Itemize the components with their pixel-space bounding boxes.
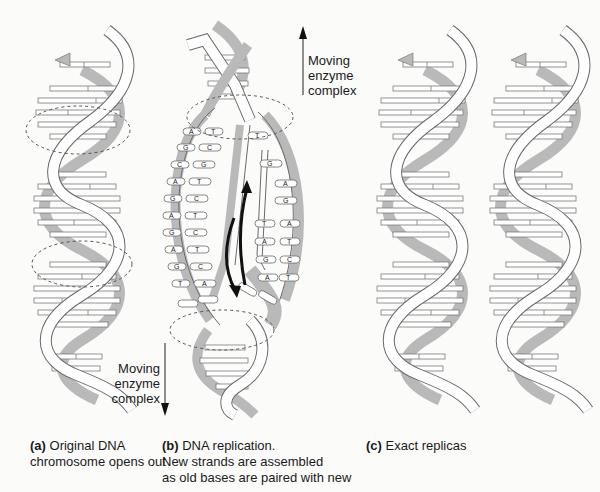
arrow-label-line: enzyme [108, 376, 160, 391]
svg-text:T: T [197, 178, 202, 185]
caption-panel-b: (b) DNA replication. New strands are ass… [162, 438, 351, 486]
svg-text:G: G [170, 195, 175, 202]
caption-line: Exact replicas [386, 438, 467, 453]
svg-text:G: G [263, 256, 268, 263]
svg-text:A: A [283, 180, 288, 187]
svg-text:C: C [198, 263, 203, 270]
svg-text:A: A [287, 220, 292, 227]
dna-replication-diagram: AT GC CG AT GC AT GC AT GC TA T G A G TA… [0, 0, 600, 492]
svg-text:A: A [202, 280, 207, 287]
svg-text:A: A [169, 212, 174, 219]
caption-panel-c: (c) Exact replicas [366, 438, 466, 454]
arrow-label-line: Moving [308, 53, 356, 68]
replica-helix-2 [490, 30, 588, 410]
svg-text:T: T [195, 246, 200, 253]
svg-text:T: T [262, 220, 267, 227]
caption-line: chromosome opens out [30, 454, 166, 470]
replica-helix-1 [377, 30, 475, 410]
caption-panel-a: (a) Original DNA chromosome opens out [30, 438, 166, 470]
arrow-label-line: complex [308, 83, 356, 98]
panel-tag: (a) [30, 438, 46, 453]
panel-tag: (c) [366, 438, 382, 453]
original-dna-helix [34, 30, 132, 410]
replication-fork: AT GC CG AT GC AT GC AT GC TA T G A G TA… [163, 25, 300, 415]
svg-text:C: C [207, 144, 212, 151]
caption-line: DNA replication. [182, 438, 275, 453]
arrowhead-up [241, 180, 252, 193]
svg-text:G: G [174, 263, 179, 270]
caption-line: New strands are assembled [162, 454, 351, 470]
caption-line: as old bases are paired with new [162, 470, 351, 486]
svg-text:G: G [283, 197, 288, 204]
moving-enzyme-label-top: Moving enzyme complex [308, 53, 356, 98]
svg-text:T: T [178, 280, 183, 287]
svg-text:A: A [173, 178, 178, 185]
svg-text:A: A [189, 128, 194, 135]
svg-text:C: C [287, 256, 292, 263]
svg-text:A: A [262, 238, 267, 245]
svg-text:G: G [183, 144, 188, 151]
moving-enzyme-label-bottom: Moving enzyme complex [108, 361, 160, 406]
panel-tag: (b) [162, 438, 179, 453]
arrow-label-line: enzyme [308, 68, 356, 83]
svg-text:A: A [265, 274, 270, 281]
svg-text:T: T [211, 128, 216, 135]
svg-text:T: T [286, 274, 291, 281]
svg-text:G: G [201, 161, 206, 168]
caption-line: Original DNA [50, 438, 126, 453]
svg-text:G: G [169, 229, 174, 236]
arrowhead-up-enzyme [299, 26, 307, 39]
svg-text:C: C [193, 229, 198, 236]
arrowhead-down-enzyme [161, 403, 169, 416]
svg-text:T: T [193, 212, 198, 219]
arrow-label-line: complex [108, 391, 160, 406]
svg-text:C: C [194, 195, 199, 202]
svg-text:A: A [171, 246, 176, 253]
svg-text:T: T [287, 238, 292, 245]
svg-text:C: C [177, 161, 182, 168]
svg-text:G: G [267, 160, 272, 167]
arrowhead-down [229, 285, 241, 298]
arrow-label-line: Moving [108, 361, 160, 376]
